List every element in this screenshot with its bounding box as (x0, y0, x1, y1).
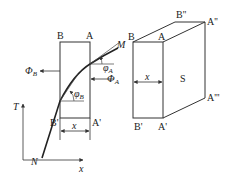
slab-outline (60, 42, 90, 118)
label-a-right: A (158, 31, 166, 42)
width-label: x (71, 120, 77, 131)
angle-b-label: φB (74, 88, 85, 101)
tangent-line-a (90, 42, 120, 64)
label-b-prime: B' (50, 117, 59, 128)
angle-arc-a (100, 57, 102, 64)
left-figure: x B A B' A' M N ΦB ΦA φA φB T x (13, 30, 126, 174)
flux-b-label: ΦB (25, 65, 38, 78)
label-m: M (116, 39, 126, 50)
label-a-double-prime: A'' (207, 16, 218, 27)
label-b-double-prime: B'' (176, 9, 186, 20)
right-figure: B A B'' A'' A''' B' A' x S (128, 9, 220, 132)
label-b-right: B (128, 31, 135, 42)
y-axis-label: T (13, 101, 20, 112)
label-a-prime: A' (92, 117, 101, 128)
bottom-edge-right (163, 98, 205, 118)
face-label-s: S (180, 73, 186, 84)
label-a-prime-right: A' (158, 121, 167, 132)
label-n: N (30, 156, 39, 167)
width-label-right: x (144, 71, 150, 82)
label-a: A (86, 30, 94, 41)
label-a-triple-prime: A''' (207, 92, 220, 103)
x-axis-label: x (78, 163, 84, 174)
label-b: B (57, 30, 64, 41)
label-b-prime-right: B' (134, 121, 143, 132)
heat-conduction-diagram: x B A B' A' M N ΦB ΦA φA φB T x (0, 0, 230, 174)
